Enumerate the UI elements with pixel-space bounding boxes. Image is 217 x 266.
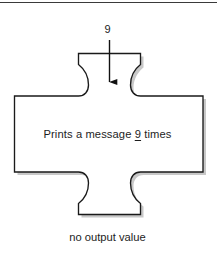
block-body-text-prefix: Prints a message — [43, 128, 134, 140]
input-value-label: 9 — [0, 24, 216, 35]
output-value-label: no output value — [0, 232, 216, 243]
block-body-text-suffix: times — [141, 128, 171, 140]
function-block-diagram: 9 Prints a message 9 times no output val… — [0, 0, 217, 266]
block-body-text: Prints a message 9 times — [0, 129, 216, 140]
